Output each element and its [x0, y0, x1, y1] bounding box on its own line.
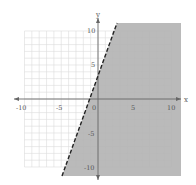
y-axis-arrow-down-icon	[96, 175, 100, 180]
y-tick-neg5: -5	[88, 130, 94, 138]
x-axis-label: x	[184, 96, 188, 104]
shaded-region	[62, 23, 181, 176]
x-axis-arrow-left-icon	[14, 97, 19, 101]
x-tick-10: 10	[167, 104, 175, 112]
x-tick-5: 5	[131, 104, 135, 112]
y-tick-5: 5	[91, 61, 95, 69]
inequality-graph: x y -10 -5 0 5 10 10 5 -5 -10	[0, 0, 196, 185]
x-tick-neg10: -10	[16, 104, 26, 112]
origin-label: 0	[92, 104, 96, 112]
y-axis-label: y	[95, 11, 100, 19]
y-tick-neg10: -10	[84, 164, 94, 172]
x-tick-neg5: -5	[56, 104, 62, 112]
y-tick-10: 10	[87, 27, 95, 35]
